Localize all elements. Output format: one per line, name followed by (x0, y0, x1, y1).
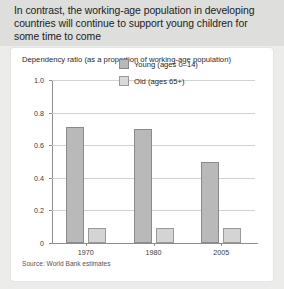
x-axis-tick-label: 2005 (213, 248, 229, 257)
legend-item-young: Young (ages 0–14) (119, 59, 198, 69)
y-axis-tick-label: 0.4 (20, 173, 44, 182)
x-axis-tick-mark (221, 243, 222, 246)
x-axis-line (52, 243, 258, 244)
legend-item-old: Old (ages 65+) (119, 76, 198, 86)
y-axis-tick-mark (49, 243, 52, 244)
y-axis-tick-mark (49, 113, 52, 114)
x-axis-tick-label: 1970 (78, 248, 94, 257)
x-axis-tick-mark (154, 243, 155, 246)
y-axis-tick-mark (49, 80, 52, 81)
source-note: Source: World Bank estimates (22, 260, 111, 267)
chart-legend: Young (ages 0–14) Old (ages 65+) (119, 59, 198, 93)
header-band: In contrast, the working-age population … (0, 0, 284, 46)
y-axis-tick-mark (49, 145, 52, 146)
legend-swatch-old-icon (119, 76, 129, 86)
y-axis-tick-label: 0.8 (20, 108, 44, 117)
bar-young-1980 (134, 129, 152, 243)
page-title: In contrast, the working-age population … (14, 4, 272, 44)
bar-old-1970 (88, 228, 106, 243)
bar-young-1970 (66, 127, 84, 243)
legend-label-young: Young (ages 0–14) (134, 60, 198, 69)
gridline (52, 113, 255, 114)
chart-card: Dependency ratio (as a proportion of wor… (11, 48, 273, 281)
page-root: In contrast, the working-age population … (0, 0, 284, 289)
legend-label-old: Old (ages 65+) (134, 77, 184, 86)
y-axis-tick-mark (49, 210, 52, 211)
y-axis-tick-mark (49, 178, 52, 179)
y-axis-tick-label: 1.0 (20, 76, 44, 85)
x-axis-tick-label: 1980 (146, 248, 162, 257)
plot-area: 00.20.40.60.81.0197019802005 (52, 80, 255, 243)
x-axis-tick-mark (86, 243, 87, 246)
y-axis-tick-label: 0 (20, 239, 44, 248)
y-axis-tick-label: 0.2 (20, 206, 44, 215)
chart-figure: 00.20.40.60.81.0197019802005 Young (ages… (11, 48, 273, 281)
bar-old-1980 (156, 228, 174, 243)
y-axis-line (52, 80, 53, 243)
y-axis-tick-label: 0.6 (20, 141, 44, 150)
legend-swatch-young-icon (119, 59, 129, 69)
bar-young-2005 (201, 162, 219, 244)
bar-old-2005 (223, 228, 241, 243)
